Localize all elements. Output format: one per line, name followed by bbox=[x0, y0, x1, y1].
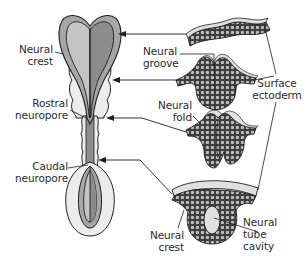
label-line: ectoderm bbox=[246, 89, 308, 101]
label-line: tube bbox=[243, 228, 277, 240]
stage-neural-plate bbox=[186, 18, 270, 46]
label-line: neuropore bbox=[6, 109, 68, 121]
label-surface-ectoderm: Surface ectoderm bbox=[246, 77, 308, 101]
label-line: Surface bbox=[246, 77, 308, 89]
label-line: Caudal bbox=[6, 160, 68, 172]
label-line: crest bbox=[148, 241, 184, 253]
embryo-dorsal-view bbox=[59, 15, 121, 236]
label-neural-groove: Neural groove bbox=[143, 45, 179, 69]
label-line: cavity bbox=[243, 240, 277, 252]
label-neural-crest-bottom: Neural crest bbox=[148, 229, 184, 253]
label-line: Neural bbox=[148, 229, 184, 241]
label-line: neuropore bbox=[6, 172, 68, 184]
label-rostral-neuropore: Rostral neuropore bbox=[6, 97, 68, 121]
label-caudal-neuropore: Caudal neuropore bbox=[6, 160, 68, 184]
label-line: Neural bbox=[8, 43, 53, 55]
label-line: groove bbox=[143, 57, 179, 69]
label-neural-crest-left: Neural crest bbox=[8, 43, 53, 67]
label-line: Rostral bbox=[6, 97, 68, 109]
label-line: crest bbox=[8, 55, 53, 67]
label-line: fold bbox=[150, 111, 192, 123]
label-line: Neural bbox=[143, 45, 179, 57]
stage-neural-fold bbox=[186, 110, 258, 168]
label-line: Neural bbox=[150, 99, 192, 111]
label-line: Neural bbox=[243, 216, 277, 228]
neurulation-diagram: Neural crest Rostral neuropore Caudal ne… bbox=[0, 0, 308, 264]
label-neural-tube-cavity: Neural tube cavity bbox=[243, 216, 277, 252]
label-neural-fold: Neural fold bbox=[150, 99, 192, 123]
